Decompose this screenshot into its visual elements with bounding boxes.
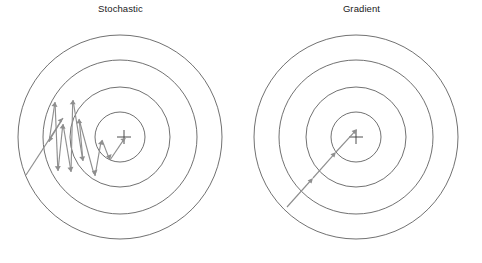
panel-gradient: Gradient — [241, 0, 482, 263]
stochastic-diagram — [0, 0, 241, 263]
gradient-path — [287, 129, 357, 207]
target-cross-icon — [117, 130, 131, 144]
stochastic-path — [26, 100, 126, 176]
figure-root: Stochastic — [0, 0, 482, 263]
panel-stochastic: Stochastic — [0, 0, 241, 263]
gradient-diagram — [241, 0, 482, 263]
arrow-head-icon — [120, 138, 126, 142]
